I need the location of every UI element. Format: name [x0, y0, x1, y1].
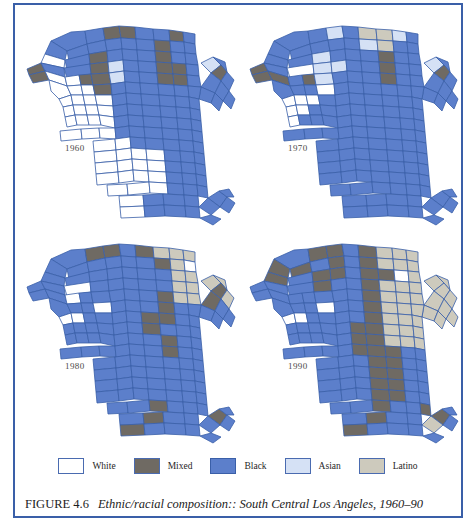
legend-item-white: White	[58, 458, 115, 474]
map-panel-1970	[238, 7, 461, 227]
choropleth-map-1980	[15, 225, 238, 445]
legend-swatch-mixed	[134, 458, 160, 474]
figure-frame: 1960 1970 1980 1990 White Mixed Black As…	[13, 3, 463, 518]
figure-caption: FIGURE 4.6 Ethnic/racial composition:: S…	[15, 491, 461, 517]
legend-swatch-asian	[285, 458, 311, 474]
map-panel-1990	[238, 225, 461, 445]
legend-swatch-white	[58, 458, 84, 474]
legend-label-latino: Latino	[393, 461, 418, 471]
map-panel-1960	[15, 7, 238, 227]
legend-label-mixed: Mixed	[168, 461, 193, 471]
legend-label-black: Black	[244, 461, 266, 471]
year-label-1960: 1960	[65, 143, 85, 153]
year-label-1970: 1970	[288, 143, 308, 153]
year-label-1980: 1980	[65, 361, 85, 371]
year-label-1990: 1990	[288, 361, 308, 371]
figure-title: Ethnic/racial composition:: South Centra…	[98, 497, 423, 512]
choropleth-map-1990	[238, 225, 461, 445]
map-panel-1980	[15, 225, 238, 445]
legend-label-white: White	[92, 461, 115, 471]
legend-item-latino: Latino	[359, 458, 418, 474]
choropleth-map-1970	[238, 7, 461, 227]
legend-swatch-black	[210, 458, 236, 474]
legend-item-mixed: Mixed	[134, 458, 193, 474]
figure-number: FIGURE 4.6	[25, 497, 89, 512]
map-legend: White Mixed Black Asian Latino	[15, 445, 461, 487]
legend-item-asian: Asian	[285, 458, 341, 474]
legend-item-black: Black	[210, 458, 266, 474]
choropleth-map-1960	[15, 7, 238, 227]
legend-label-asian: Asian	[319, 461, 341, 471]
legend-swatch-latino	[359, 458, 385, 474]
maps-grid: 1960 1970 1980 1990	[15, 5, 461, 445]
